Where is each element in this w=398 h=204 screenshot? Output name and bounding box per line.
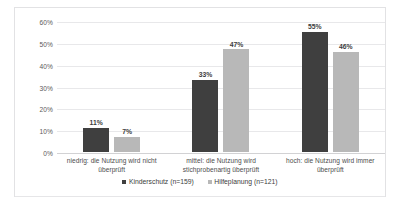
x-axis-baseline — [57, 153, 385, 154]
y-axis-tick-label: 0% — [43, 150, 53, 157]
bar: 33% — [192, 80, 218, 152]
cut-off-title-remnant — [0, 0, 398, 3]
bar-value-label: 11% — [90, 119, 103, 126]
x-axis-category-label: hoch: die Nutzung wird immer überprüft — [276, 156, 385, 174]
bar-group: 55%46% — [276, 21, 385, 152]
bar: 7% — [114, 137, 140, 152]
bar: 55% — [302, 32, 328, 152]
bar-value-label: 7% — [122, 128, 132, 135]
chart-legend: Kinderschutz (n=159)Hilfeplanung (n=121) — [14, 178, 386, 185]
legend-item-label: Hilfeplanung (n=121) — [214, 178, 277, 185]
chart-frame: 0%10%20%30%40%50%60% 11%7%33%47%55%46% n… — [14, 7, 386, 197]
plot-area: 0%10%20%30%40%50%60% 11%7%33%47%55%46% n… — [57, 22, 385, 153]
legend-swatch-icon — [122, 180, 126, 184]
chart-screenshot: 0%10%20%30%40%50%60% 11%7%33%47%55%46% n… — [0, 0, 398, 204]
legend-item[interactable]: Kinderschutz (n=159) — [122, 178, 193, 185]
legend-item[interactable]: Hilfeplanung (n=121) — [208, 178, 278, 185]
y-axis-tick-label: 60% — [40, 19, 54, 26]
bar: 11% — [83, 128, 109, 152]
bar-group: 33%47% — [166, 21, 275, 152]
bar-group: 11%7% — [57, 21, 166, 152]
bar-value-label: 55% — [308, 23, 322, 30]
y-axis-tick-label: 50% — [40, 40, 54, 47]
bar: 46% — [333, 52, 359, 152]
x-axis-category-label: mittel: die Nutzung wird stichprobenarti… — [166, 156, 275, 174]
y-axis-tick-label: 20% — [40, 106, 54, 113]
bar-value-label: 46% — [339, 43, 353, 50]
legend-divider — [15, 196, 385, 197]
legend-item-label: Kinderschutz (n=159) — [129, 178, 194, 185]
y-axis-tick-label: 30% — [40, 84, 54, 91]
bar: 47% — [223, 49, 249, 152]
bar-value-label: 33% — [199, 71, 213, 78]
bar-value-label: 47% — [230, 41, 244, 48]
legend-swatch-icon — [208, 180, 212, 184]
y-axis-tick-label: 40% — [40, 62, 54, 69]
x-axis-category-label: niedrig: die Nutzung wird nicht überprüf… — [57, 156, 166, 174]
y-axis-tick-label: 10% — [40, 128, 54, 135]
